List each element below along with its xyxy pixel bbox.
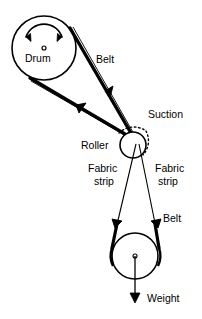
drum-rotation-arc-icon <box>26 24 62 37</box>
roller-circle <box>120 132 146 158</box>
fabric-strip-left-label-line1: Fabric <box>88 162 117 174</box>
weight-arrowhead-icon <box>130 293 140 303</box>
fabric-strip-right-label-line2: strip <box>158 175 178 187</box>
belt-lower-label: Belt <box>163 212 181 224</box>
apparatus-diagram: Drum Belt Suction Roller Fabric strip <box>0 0 202 319</box>
diagram-canvas: Drum Belt Suction Roller Fabric strip <box>0 0 202 319</box>
belt-upper-label: Belt <box>96 53 114 65</box>
weight-label: Weight <box>147 292 180 304</box>
drum-center-dot <box>42 46 46 50</box>
fabric-strip-left-label-line2: strip <box>94 175 114 187</box>
roller-label: Roller <box>81 139 109 151</box>
fabric-strip-right-label-line1: Fabric <box>155 162 184 174</box>
fabric-strip-left-thin <box>115 144 136 233</box>
upper-belt-strand-top <box>70 28 135 140</box>
drum-label: Drum <box>25 52 51 64</box>
fabric-strip-right-thin <box>139 144 157 233</box>
drum-circle <box>12 16 76 80</box>
suction-label: Suction <box>148 108 183 120</box>
